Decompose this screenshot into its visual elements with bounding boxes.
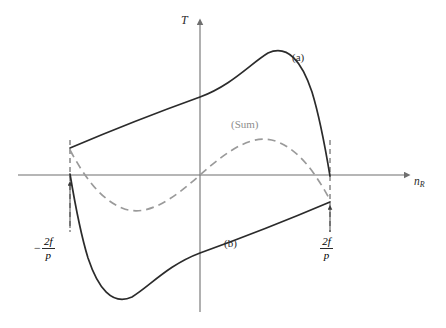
plot-canvas xyxy=(0,0,446,328)
right-tick-label: 2f p xyxy=(320,236,333,261)
x-axis-label: nR xyxy=(414,176,425,189)
curve-b-label: (b) xyxy=(224,238,237,249)
figure-container: T nR (a) (b) (Sum) − 2f p 2f p xyxy=(0,0,446,328)
left-tick-minus-sign: − xyxy=(34,241,41,256)
left-tick-fraction: 2f p xyxy=(42,236,55,261)
curve-a-label: (a) xyxy=(292,52,304,63)
x-axis-label-subscript: R xyxy=(420,180,425,189)
right-tick-fraction: 2f p xyxy=(320,236,333,261)
right-tick-numerator: 2f xyxy=(320,236,333,248)
curve-sum-label: (Sum) xyxy=(231,119,259,130)
y-axis-label: T xyxy=(181,14,188,26)
left-tick-numerator: 2f xyxy=(42,236,55,248)
right-tick-denominator: p xyxy=(322,249,332,261)
left-tick-label: − 2f p xyxy=(34,236,55,261)
left-tick-denominator: p xyxy=(44,249,54,261)
